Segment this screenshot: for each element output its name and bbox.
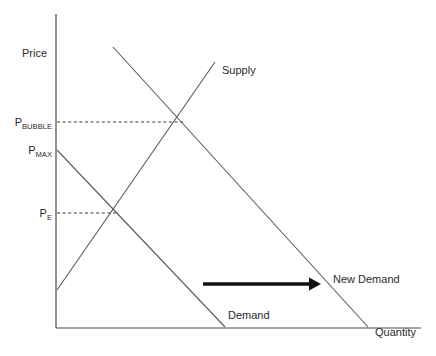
p-max-subscript: MAX — [36, 150, 52, 159]
p-max-base: P — [28, 144, 35, 156]
new-demand-curve-label: New Demand — [333, 273, 400, 285]
y-axis-title: Price — [22, 47, 47, 59]
supply-demand-chart: Price Quantity PBUBBLE PMAX PE Supply De… — [0, 0, 436, 356]
y-tick-label-p-e: PE — [40, 207, 52, 222]
p-bubble-base: P — [15, 116, 22, 128]
p-e-base: P — [40, 207, 47, 219]
x-axis-title: Quantity — [375, 326, 416, 338]
y-tick-label-p-bubble: PBUBBLE — [15, 116, 52, 131]
p-e-subscript: E — [47, 213, 52, 222]
y-tick-label-p-max: PMAX — [28, 144, 52, 159]
demand-curve-label: Demand — [228, 309, 270, 321]
p-bubble-subscript: BUBBLE — [22, 122, 52, 131]
supply-curve — [57, 62, 215, 290]
chart-canvas: Price Quantity PBUBBLE PMAX PE Supply De… — [0, 0, 436, 356]
demand-curve — [57, 150, 225, 327]
demand-shift-arrow-head — [309, 278, 321, 291]
supply-curve-label: Supply — [222, 64, 256, 76]
